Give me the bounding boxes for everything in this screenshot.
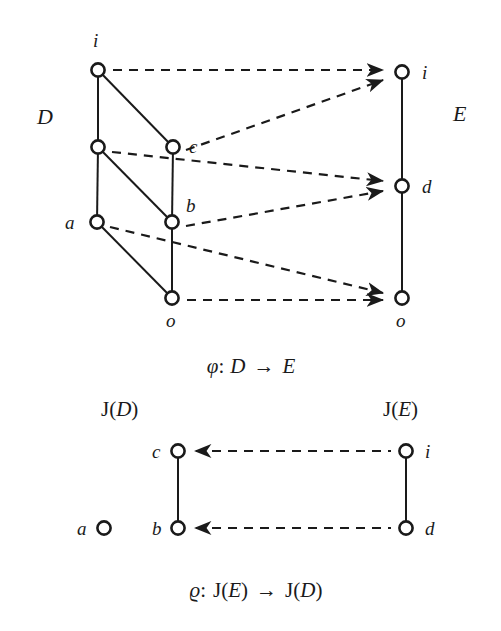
edge-cD-bD: [172, 147, 173, 222]
node-a-JD[interactable]: [97, 521, 110, 534]
caption-phi-symbol: φ: [207, 354, 219, 378]
caption-rho-source-var: E: [227, 578, 241, 602]
edge-midD-aD: [97, 147, 98, 222]
svg-text:ϱ:J(E)→J(D): ϱ:J(E)→J(D): [190, 578, 323, 602]
node-b-JD[interactable]: [171, 521, 184, 534]
caption-phi-target: E: [281, 354, 295, 378]
node-a-D[interactable]: [90, 215, 103, 228]
caption-rho-symbol: ϱ: [190, 578, 201, 602]
label-node-b-JD: b: [152, 518, 162, 539]
top-diagram-nodes: [90, 63, 408, 304]
label-node-o-D: o: [166, 310, 176, 331]
node-c-D[interactable]: [166, 140, 179, 153]
label-poset-JD-var: D: [115, 397, 131, 421]
arrow-cD-to-iE: [186, 80, 383, 150]
edge-aD-oD: [97, 222, 172, 298]
bottom-diagram-nodes: [97, 444, 412, 534]
node-c-JD[interactable]: [171, 444, 184, 457]
node-i-JE[interactable]: [399, 444, 412, 457]
arrow-midD-to-dE: [112, 152, 383, 181]
bottom-caption: ϱ:J(E)→J(D): [190, 578, 323, 602]
top-caption: φ:D→E: [207, 354, 296, 378]
caption-rho-colon: :: [200, 578, 206, 602]
label-node-c-D: c: [189, 136, 198, 157]
caption-rho-target-var: D: [299, 578, 315, 602]
label-poset-JD-J: J(: [101, 397, 116, 421]
caption-rho-target: J(: [285, 578, 300, 602]
node-i-E[interactable]: [395, 65, 408, 78]
label-poset-JD-close: ): [131, 397, 138, 421]
caption-rho-source-close: ): [241, 578, 248, 602]
arrow-bD-to-dE: [186, 191, 383, 226]
caption-phi-arrow: →: [253, 354, 274, 378]
arrow-aD-to-oE: [110, 227, 383, 293]
edge-iD-cD: [98, 70, 173, 147]
label-node-i-JE: i: [425, 441, 430, 462]
bottom-diagram-labels: J(D) J(E) c b a i d: [77, 397, 435, 539]
rho-mapping-arrows: [196, 451, 391, 528]
node-d-JE[interactable]: [399, 521, 412, 534]
label-node-a-JD: a: [77, 518, 87, 539]
top-left-poset-D: [97, 70, 173, 298]
caption-phi-source: D: [229, 354, 245, 378]
caption-rho-arrow: →: [256, 578, 277, 602]
node-i-D[interactable]: [91, 63, 104, 76]
phi-mapping-arrows: [110, 70, 383, 300]
label-node-b-D: b: [186, 195, 196, 216]
label-node-i-E: i: [422, 62, 427, 83]
node-mid-D[interactable]: [91, 140, 104, 153]
label-node-d-JE: d: [425, 518, 435, 539]
label-poset-D: D: [36, 104, 53, 129]
caption-rho-target-close: ): [315, 578, 322, 602]
label-poset-JD: J(D): [101, 397, 138, 421]
label-node-o-E: o: [396, 310, 406, 331]
label-poset-JE-close: ): [411, 397, 418, 421]
node-b-D[interactable]: [165, 215, 178, 228]
diagram-svg: D E i c a b o i d o φ:D→E: [0, 0, 501, 631]
label-poset-JE-J: J(: [383, 397, 398, 421]
label-poset-E: E: [452, 101, 467, 126]
label-node-a-D: a: [65, 212, 75, 233]
caption-phi-colon: :: [218, 354, 224, 378]
node-o-E[interactable]: [395, 291, 408, 304]
caption-rho-source: J(: [213, 578, 228, 602]
figure-container: D E i c a b o i d o φ:D→E: [0, 0, 501, 631]
node-d-E[interactable]: [395, 179, 408, 192]
label-node-i-D: i: [93, 30, 98, 51]
svg-text:φ:D→E: φ:D→E: [207, 354, 296, 378]
label-node-d-E: d: [422, 176, 432, 197]
label-poset-JE-var: E: [397, 397, 411, 421]
node-o-D[interactable]: [165, 291, 178, 304]
label-node-c-JD: c: [152, 441, 161, 462]
label-poset-JE: J(E): [383, 397, 418, 421]
